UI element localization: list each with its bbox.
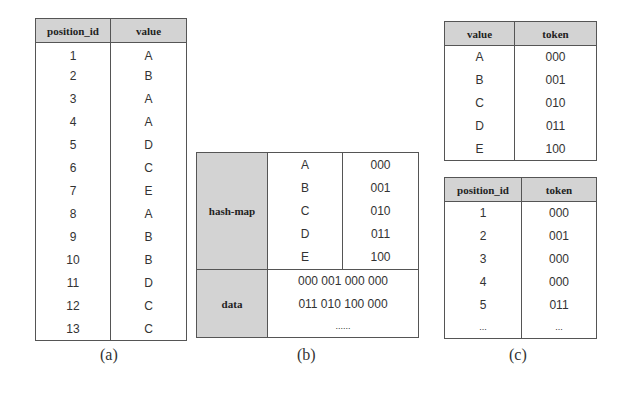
hashmap-token: 010 [343,200,419,223]
table-c-value-token: value token A000 B001 C010 D011 E100 [444,21,597,161]
cell-token: 000 [515,46,597,69]
cell-value: E [445,138,515,161]
hashmap-token: 011 [343,223,419,246]
cell-position-id: 2 [445,225,522,248]
cell-value: D [111,134,187,157]
table-b-hashmap-data: hash-map A 000 B001 C010 D011 E100 data … [196,152,419,338]
data-line-ellipsis: ...... [268,316,419,338]
hashmap-token: 000 [343,153,419,177]
table-a-position-value: position_id value 1A 2B 3A 4A 5D 6C 7E 8… [35,18,187,341]
hashmap-key: C [268,200,343,223]
data-line: 000 001 000 000 [268,270,419,293]
header-token: token [522,178,597,202]
cell-position-id: 1 [445,202,522,225]
data-label: data [197,270,268,338]
hashmap-key: B [268,177,343,200]
cell-value: E [111,180,187,203]
cell-position-id: 10 [36,249,111,272]
cell-token: 010 [515,92,597,115]
cell-position-id: 9 [36,226,111,249]
caption-a: (a) [100,346,118,364]
cell-position-id: 2 [36,65,111,88]
cell-value: A [111,203,187,226]
caption-c: (c) [509,346,527,364]
cell-position-id: 4 [36,111,111,134]
cell-value: C [445,92,515,115]
cell-value: D [445,115,515,138]
cell-position-id: 1 [36,43,111,65]
cell-value: C [111,295,187,318]
cell-token: 000 [522,202,597,225]
cell-position-id: 11 [36,272,111,295]
cell-value: A [111,88,187,111]
cell-token: 001 [522,225,597,248]
cell-ellipsis: ... [445,317,522,339]
caption-b: (b) [297,346,316,364]
cell-value: B [445,69,515,92]
table-c-position-token: position_id token 1000 2001 3000 4000 50… [444,177,597,339]
hashmap-key: D [268,223,343,246]
cell-token: 000 [522,248,597,271]
cell-token: 000 [522,271,597,294]
cell-position-id: 12 [36,295,111,318]
hashmap-key: E [268,246,343,270]
data-line: 011 010 100 000 [268,293,419,316]
cell-token: 011 [515,115,597,138]
cell-ellipsis: ... [522,317,597,339]
cell-value: C [111,157,187,180]
cell-position-id: 6 [36,157,111,180]
header-token: token [515,22,597,46]
cell-value: B [111,65,187,88]
cell-token: 011 [522,294,597,317]
cell-value: A [111,111,187,134]
cell-token: 001 [515,69,597,92]
cell-position-id: 4 [445,271,522,294]
cell-position-id: 5 [445,294,522,317]
cell-token: 100 [515,138,597,161]
cell-value: D [111,272,187,295]
cell-value: B [111,226,187,249]
cell-position-id: 3 [36,88,111,111]
cell-position-id: 8 [36,203,111,226]
hashmap-label: hash-map [197,153,268,270]
cell-value: B [111,249,187,272]
hashmap-token: 100 [343,246,419,270]
hashmap-token: 001 [343,177,419,200]
header-position-id: position_id [36,19,111,43]
cell-position-id: 13 [36,318,111,341]
cell-position-id: 7 [36,180,111,203]
header-value: value [445,22,515,46]
cell-value: C [111,318,187,341]
cell-value: A [111,43,187,65]
header-value: value [111,19,187,43]
cell-position-id: 3 [445,248,522,271]
hashmap-key: A [268,153,343,177]
cell-value: A [445,46,515,69]
cell-position-id: 5 [36,134,111,157]
header-position-id: position_id [445,178,522,202]
